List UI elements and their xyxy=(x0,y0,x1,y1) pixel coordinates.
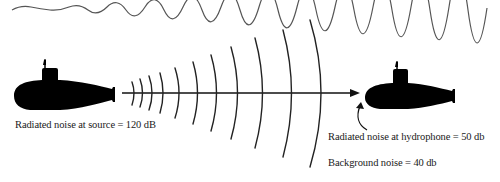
pointer-arrow-head-icon xyxy=(356,102,364,109)
source-submarine-icon xyxy=(14,59,115,110)
sea-surface-wave xyxy=(12,0,487,43)
background-noise-label: Background noise = 40 db xyxy=(328,157,437,168)
source-noise-label: Radiated noise at source = 120 dB xyxy=(15,119,156,130)
hydrophone-noise-label: Radiated noise at hydrophone = 50 db xyxy=(328,131,484,142)
arrow-head-icon xyxy=(350,89,360,97)
hydrophone-pointer-arrow xyxy=(358,106,367,130)
sonar-diagram xyxy=(0,0,500,182)
receiver-submarine-icon xyxy=(365,61,455,109)
